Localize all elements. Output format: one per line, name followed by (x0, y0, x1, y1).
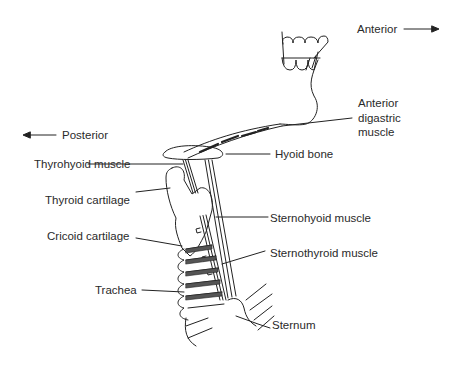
anterior-direction-label: Anterior (357, 22, 397, 36)
label-cricoid-cartilage: Cricoid cartilage (47, 229, 129, 243)
posterior-direction-label: Posterior (62, 128, 108, 142)
posterior-arrow-icon (23, 132, 56, 138)
label-sternothyroid-muscle: Sternothyroid muscle (270, 246, 378, 260)
anatomy-illustration (0, 0, 461, 365)
anterior-arrow-icon (404, 26, 439, 32)
label-anterior-digastric-line1: Anterior (358, 96, 398, 110)
label-thyrohyoid-muscle: Thyrohyoid muscle (34, 157, 131, 171)
thyroid-cartilage (136, 167, 212, 256)
label-sternum: Sternum (272, 318, 315, 332)
label-anterior-digastric-line2: digastric (358, 111, 401, 125)
label-trachea: Trachea (95, 283, 137, 297)
label-hyoid-bone: Hyoid bone (275, 147, 333, 161)
label-thyroid-cartilage: Thyroid cartilage (45, 193, 130, 207)
trachea (136, 238, 224, 346)
mandible-teeth (280, 32, 328, 125)
label-anterior-digastric-line3: muscle (358, 125, 394, 139)
label-sternohyoid-muscle: Sternohyoid muscle (270, 211, 371, 225)
